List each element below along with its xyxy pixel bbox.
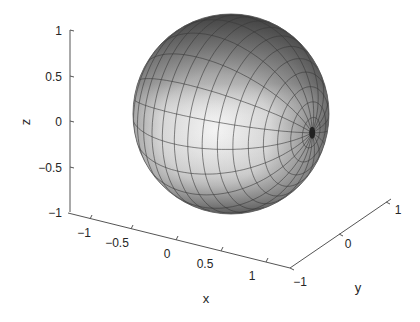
sphere-pole: [309, 127, 315, 139]
x-axis-label: x: [203, 291, 210, 306]
y-axis-label: y: [355, 280, 362, 295]
y-ticks: [290, 202, 390, 270]
sphere-surface-plot: 1 0.5 0 −0.5 −1 z −1 −0.5 0 0.5 1 x −1 0…: [0, 0, 420, 322]
y-tick-label: 1: [395, 203, 402, 217]
z-tick-label: 0: [55, 115, 62, 129]
z-tick-label: −0.5: [38, 161, 62, 175]
z-tick-label: 1: [55, 24, 62, 38]
x-tick-label: 1: [249, 269, 256, 283]
z-ticks: [70, 30, 74, 168]
x-tick-label: −0.5: [105, 236, 129, 250]
z-tick-label: 0.5: [45, 70, 62, 84]
z-tick-labels: 1 0.5 0 −0.5 −1: [38, 24, 62, 220]
y-tick-labels: −1 0 1: [293, 203, 402, 289]
x-tick-label: −1: [77, 226, 91, 240]
y-tick-label: −1: [293, 275, 307, 289]
y-tick-label: 0: [345, 237, 352, 251]
z-axis-label: z: [18, 119, 33, 126]
z-tick-label: −1: [48, 206, 62, 220]
x-axis-line: [68, 213, 290, 268]
sphere: [132, 14, 330, 214]
x-tick-label: 0.5: [197, 257, 214, 271]
x-tick-label: 0: [164, 247, 171, 261]
x-tick-labels: −1 −0.5 0 0.5 1: [77, 226, 256, 283]
y-axis-line: [290, 199, 391, 268]
